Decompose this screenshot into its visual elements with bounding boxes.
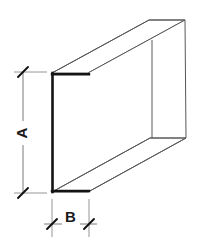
dim-b-label: B	[65, 208, 76, 225]
channel-body	[52, 20, 186, 192]
drawing-canvas: A B	[0, 0, 198, 244]
channel-section-drawing: A B	[0, 0, 198, 244]
dimension-b: B	[44, 199, 97, 237]
dimension-a: A	[13, 67, 47, 198]
dim-a-label: A	[13, 127, 30, 138]
